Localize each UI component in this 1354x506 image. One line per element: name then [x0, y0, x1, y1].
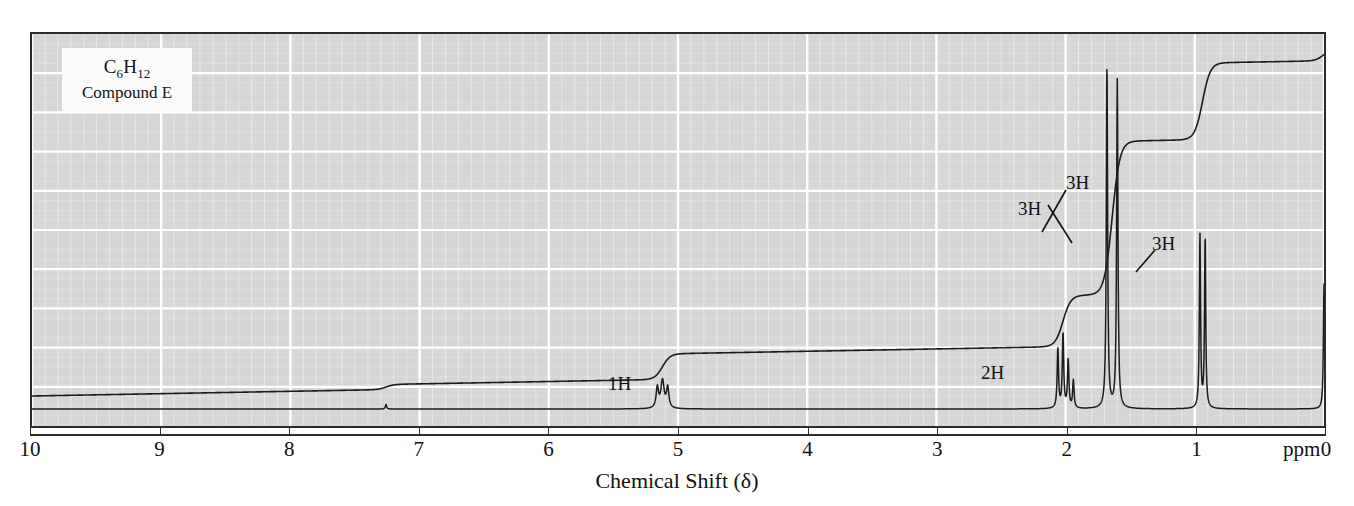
x-tick-label-3: 3 — [932, 437, 943, 462]
x-tick-8 — [289, 428, 290, 435]
x-tick-label-10: 10 — [20, 437, 41, 462]
integration-label-3h-4: 3H — [1152, 233, 1175, 255]
x-tick-label-6: 6 — [543, 437, 554, 462]
x-tick-label-0: 0 — [1321, 437, 1332, 462]
x-tick-label-5: 5 — [673, 437, 684, 462]
x-tick-9 — [160, 428, 161, 435]
compound-name: Compound E — [82, 83, 172, 104]
x-tick-label-1: 1 — [1191, 437, 1202, 462]
x-tick-7 — [419, 428, 420, 435]
integration-label-3h-2: 3H — [1018, 198, 1041, 220]
plot-frame — [30, 32, 1326, 428]
x-tick-label-9: 9 — [154, 437, 165, 462]
x-tick-label-7: 7 — [414, 437, 425, 462]
nmr-spectrum-figure: C6H12 Compound E 1H2H3H3H3H 109876543210… — [0, 0, 1354, 506]
spectrum-trace — [32, 34, 1324, 426]
ppm-unit-label: ppm — [1283, 437, 1320, 462]
x-axis-title: Chemical Shift (δ) — [0, 468, 1354, 494]
x-tick-3 — [937, 428, 938, 435]
x-tick-label-4: 4 — [802, 437, 813, 462]
molecular-formula: C6H12 — [82, 55, 172, 82]
x-tick-2 — [1067, 428, 1068, 435]
x-tick-10 — [30, 428, 31, 435]
x-tick-1 — [1196, 428, 1197, 435]
integration-label-1h-0: 1H — [608, 373, 631, 395]
x-tick-label-2: 2 — [1062, 437, 1073, 462]
integration-label-3h-3: 3H — [1066, 172, 1089, 194]
x-tick-label-8: 8 — [284, 437, 295, 462]
integration-label-2h-1: 2H — [981, 362, 1004, 384]
x-tick-4 — [808, 428, 809, 435]
compound-label-box: C6H12 Compound E — [62, 48, 192, 112]
x-tick-5 — [678, 428, 679, 435]
x-tick-0 — [1325, 428, 1326, 435]
x-tick-6 — [548, 428, 549, 435]
